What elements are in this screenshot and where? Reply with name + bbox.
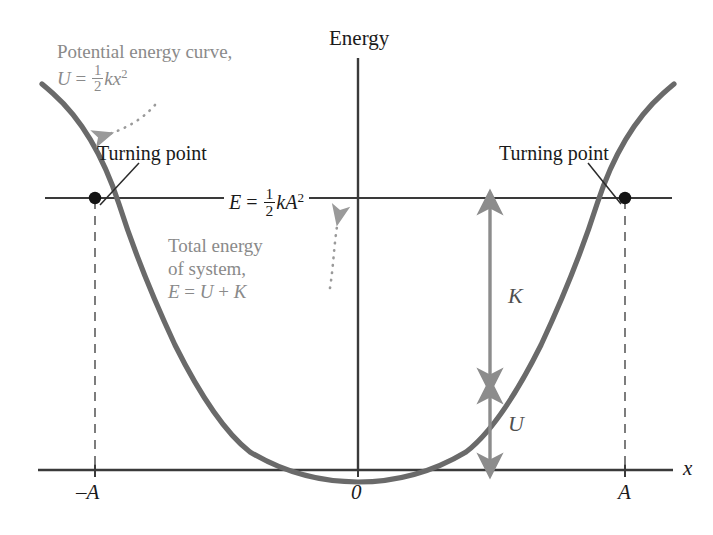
x-axis-title: x <box>683 456 692 481</box>
one-half-fraction: 1 2 <box>264 186 276 219</box>
kinetic-energy-label: K <box>508 283 523 309</box>
x-tick-label-negative-A: –A <box>76 480 99 505</box>
fraction-numerator: 1 <box>264 186 276 203</box>
total-energy-plus: + <box>218 281 229 302</box>
y-axis-title: Energy <box>329 26 389 51</box>
total-energy-equals: = <box>184 281 195 302</box>
potential-symbol: U <box>57 68 71 89</box>
turning-point-right-dot <box>619 192 631 204</box>
total-energy-annotation-line2: of system, <box>168 257 263 280</box>
total-energy-equation: E = 1 2 kA2 <box>224 186 309 219</box>
potential-fraction-denominator: 2 <box>92 79 103 94</box>
potential-energy-label: U <box>508 411 524 437</box>
total-energy-U: U <box>200 281 214 302</box>
potential-equals: = <box>75 68 86 89</box>
energy-exponent: 2 <box>297 190 304 205</box>
potential-curve-leader <box>103 105 155 136</box>
turning-point-left-label: Turning point <box>97 142 207 165</box>
potential-curve-annotation-line2: U = 1 2 kx2 <box>57 63 232 94</box>
potential-curve-annotation: Potential energy curve, U = 1 2 kx2 <box>57 40 232 94</box>
total-energy-K: K <box>234 281 247 302</box>
energy-symbol: E <box>229 191 241 213</box>
energy-equals: = <box>246 191 257 213</box>
turning-point-left-dot <box>89 192 101 204</box>
x-tick-label-positive-A: A <box>618 480 631 505</box>
potential-energy-figure: Energy x –A 0 A E = 1 2 kA2 Potential en… <box>0 0 713 535</box>
potential-fraction-numerator: 1 <box>92 63 103 79</box>
total-energy-annotation-line1: Total energy <box>168 234 263 257</box>
total-energy-leader <box>330 215 339 288</box>
potential-exponent: 2 <box>121 67 127 81</box>
x-tick-label-zero: 0 <box>351 480 362 505</box>
potential-one-half-fraction: 1 2 <box>92 63 103 94</box>
turning-point-right-label: Turning point <box>499 142 609 165</box>
total-energy-annotation: Total energy of system, E = U + K <box>168 234 263 304</box>
total-energy-E: E <box>168 281 180 302</box>
potential-curve-annotation-line1: Potential energy curve, <box>57 40 232 63</box>
fraction-denominator: 2 <box>264 203 276 219</box>
energy-term: kA <box>276 191 297 213</box>
potential-term: kx <box>104 68 121 89</box>
total-energy-annotation-line3: E = U + K <box>168 280 263 303</box>
